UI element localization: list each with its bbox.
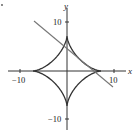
x-tick-label-pos10: 10 [109,75,118,85]
y-axis-label: y [63,1,68,11]
y-tick-label-pos10: 10 [53,17,62,27]
x-tick-label-neg10: −10 [12,75,25,85]
corner-mark [1,4,3,6]
tangent-line [34,21,113,87]
astroid-plot: x y −10 10 10 −10 [0,0,136,133]
y-tick-label-neg10: −10 [48,114,61,124]
x-axis-label: x [127,66,132,76]
